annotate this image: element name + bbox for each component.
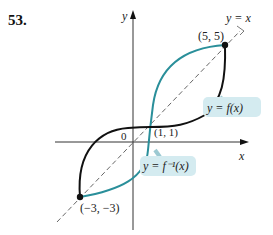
y-axis-label: y [121,9,128,23]
point-neg3-neg3 [77,194,83,200]
point-label-neg3-neg3: (−3, −3) [80,201,120,215]
point-label-5-5: (5, 5) [198,29,224,43]
graph-figure: y x 0 y = x (5, 5) (1, 1) (−3, −3) y = f… [0,0,273,235]
f-inverse-label: y = f⁻¹(x) [142,159,189,173]
x-axis-arrow-icon [240,139,249,145]
f-inverse-callout-pointer [155,150,160,157]
identity-label: y = x [225,11,251,25]
point-label-1-1: (1, 1) [154,126,178,139]
origin-label: 0 [121,130,127,142]
f-label: y = f(x) [206,101,243,115]
identity-leader [237,26,244,35]
y-axis-arrow-icon [130,10,136,19]
x-axis-label: x [238,149,245,163]
